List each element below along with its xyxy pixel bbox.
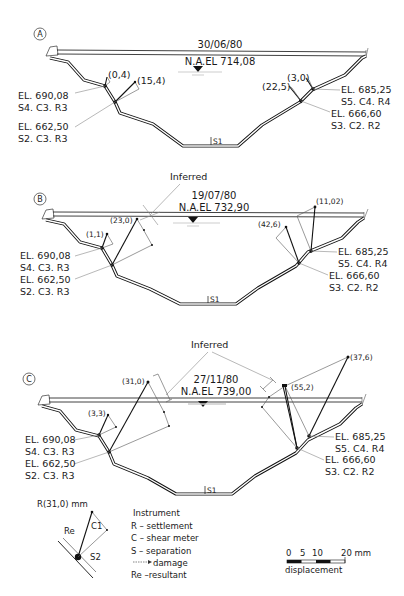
- right-lower-instruments: S3. C2. R2: [325, 466, 374, 477]
- reading-left-lower: (31,0): [122, 377, 145, 386]
- scale-tick-10: 10: [312, 548, 323, 558]
- section-b-id: B: [37, 195, 43, 204]
- crest-line-bottom: [53, 216, 364, 217]
- section-a-s1: S1: [213, 137, 223, 146]
- scale-bar: 0 5 10 20 mm displacement: [285, 548, 371, 575]
- left-lower-instruments: S2. C3. R3: [18, 133, 67, 144]
- right-upper-elevation: EL. 685,25: [335, 431, 386, 442]
- reading-left-upper: (1,1): [86, 230, 104, 239]
- left-upper-elevation: EL. 690,08: [18, 90, 69, 101]
- damage-arrow-icon: [133, 560, 152, 564]
- crest-parapet-left: [46, 46, 58, 56]
- scale-tick-20: 20 mm: [341, 548, 371, 558]
- legend-item-shear-meter: C – shear meter: [131, 533, 199, 543]
- right-upper-elevation: EL. 685,25: [338, 246, 389, 257]
- right-upper-instruments: S5. C4. R4: [335, 443, 384, 454]
- key-surface-line: [58, 541, 93, 578]
- left-lower-elevation: EL. 662,50: [18, 121, 69, 132]
- section-c-inferred: Inferred: [191, 339, 228, 350]
- right-upper-instruments: S5. C4. R4: [338, 258, 387, 269]
- left-upper-instruments: S4. C3. R3: [20, 262, 69, 273]
- reading-right-upper: (11,02): [316, 197, 343, 206]
- vector-left-lower: [112, 219, 137, 265]
- right-upper-instruments: S5. C4. R4: [341, 96, 390, 107]
- section-a-id: A: [37, 30, 43, 39]
- key-s-label: S2: [90, 552, 101, 562]
- left-upper-elevation: EL. 690,08: [25, 434, 76, 445]
- vector-left-upper: [99, 415, 108, 435]
- section-c-s1: S1: [207, 486, 217, 495]
- key-title: R(31,0) mm: [37, 499, 88, 509]
- key-diagram: R(31,0) mm Re C1 S2: [37, 499, 108, 578]
- right-lower-elevation: EL. 666,60: [329, 270, 380, 281]
- right-lower-elevation: EL. 666,60: [325, 454, 376, 465]
- legend-title: Instrument: [133, 508, 180, 518]
- section-b: B Inferred 19/07/80 N.A.EL 732,90 (1,1) …: [20, 171, 389, 304]
- left-upper-instruments: S4. C3. R3: [18, 102, 67, 113]
- legend-item-resultant: Re –resultant: [131, 570, 187, 580]
- vector-left-lower: [109, 382, 148, 452]
- section-a-water-level: N.A.EL 714,08: [185, 56, 256, 67]
- dam-profile: [50, 56, 366, 146]
- section-c-id: C: [26, 375, 32, 384]
- left-lower-elevation: EL. 662,50: [20, 274, 71, 285]
- section-c: C Inferred 27/11/80 N.A.EL 739,00 (3,3) …: [23, 339, 386, 495]
- crest-parapet-left: [42, 209, 54, 219]
- scale-tick-5: 5: [300, 548, 305, 558]
- right-lower-instruments: S3. C2. R2: [329, 282, 378, 293]
- section-a: A 30/06/80 N.A.EL 714,08 (0,4) (15,4) EL…: [18, 28, 392, 146]
- reading-left-upper: (0,4): [108, 69, 131, 80]
- left-lower-instruments: S2. C3. R3: [25, 470, 74, 481]
- scale-label: displacement: [285, 565, 343, 575]
- section-b-date: 19/07/80: [192, 190, 237, 201]
- section-b-s1: S1: [210, 295, 220, 304]
- left-upper-elevation: EL. 690,08: [20, 250, 71, 261]
- key-re-label: Re: [64, 526, 75, 536]
- crest-right-end: [366, 48, 368, 57]
- crest-parapet-left: [38, 395, 50, 405]
- key-c-label: C1: [91, 521, 102, 531]
- right-lower-elevation: EL. 666,60: [331, 108, 382, 119]
- reading-left-lower: (23,0): [110, 216, 133, 225]
- section-a-date: 30/06/80: [198, 39, 243, 50]
- reading-right-lower: (22,5): [262, 81, 291, 92]
- left-lower-elevation: EL. 662,50: [25, 458, 76, 469]
- legend-item-settlement: R – settlement: [131, 521, 193, 531]
- key-component-vectors: [78, 512, 107, 557]
- reading-right-upper: (37,6): [350, 353, 373, 362]
- reading-right-lower: (42,6): [258, 220, 281, 229]
- reading-left-upper: (3,3): [88, 409, 106, 418]
- water-level-icon: [178, 66, 222, 75]
- section-c-date: 27/11/80: [194, 374, 239, 385]
- section-b-water-level: N.A.EL 732,90: [179, 202, 250, 213]
- dam-displacement-diagram: A 30/06/80 N.A.EL 714,08 (0,4) (15,4) EL…: [0, 0, 404, 596]
- crest-line-top: [57, 50, 366, 52]
- vector-right-lower: [286, 227, 299, 263]
- legend-item-damage: damage: [153, 558, 188, 568]
- vector-right-upper: [309, 357, 348, 436]
- inferred-bracket-right: [260, 377, 276, 392]
- vector-right-upper: [311, 207, 315, 251]
- reading-right-lower: (55,2): [291, 383, 314, 392]
- left-upper-instruments: S4. C3. R3: [25, 446, 74, 457]
- water-level-icon: [173, 217, 220, 226]
- right-upper-elevation: EL. 685,25: [341, 84, 392, 95]
- scale-tick-0: 0: [286, 548, 291, 558]
- reading-left-lower: (15,4): [137, 75, 166, 86]
- section-b-inferred: Inferred: [170, 171, 207, 182]
- section-c-water-level: N.A.EL 739,00: [181, 386, 252, 397]
- legend-item-separation: S – separation: [131, 546, 191, 556]
- left-lower-instruments: S2. C3. R3: [20, 286, 69, 297]
- right-lower-instruments: S3. C2. R2: [331, 120, 380, 131]
- vector-left-lower: [115, 82, 135, 102]
- instrument-legend: Instrument R – settlement C – shear mete…: [131, 508, 199, 580]
